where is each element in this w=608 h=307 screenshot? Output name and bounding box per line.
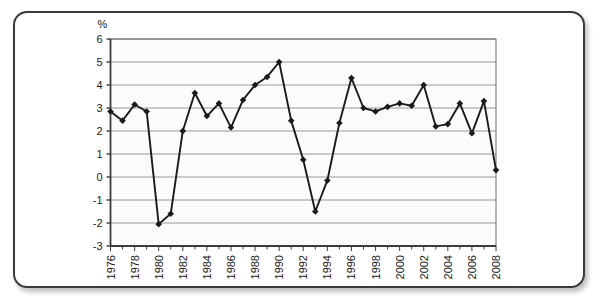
y-tick-label: 3 [96,102,102,114]
x-tick-label: 2006 [466,255,478,279]
x-tick-label: 2000 [394,255,406,279]
y-tick-label: 5 [96,56,102,68]
x-tick-label: 1978 [129,255,141,279]
x-tick-label: 1976 [105,255,117,279]
x-tick-label: 1988 [249,255,261,279]
x-tick-label: 1984 [201,255,213,279]
x-tick-label: 1982 [177,255,189,279]
x-tick-label: 1980 [153,255,165,279]
line-chart-svg: 6543210-1-2-3%19761978198019821984198619… [0,0,608,307]
y-tick-label: 2 [96,125,102,137]
x-tick-label: 2008 [490,255,502,279]
y-tick-label: 4 [96,79,102,91]
y-tick-label: 6 [96,33,102,45]
y-tick-label: 0 [96,171,102,183]
x-tick-label: 1996 [345,255,357,279]
x-tick-label: 1986 [225,255,237,279]
y-tick-label: -3 [93,240,103,252]
x-tick-label: 2004 [442,255,454,279]
x-tick-label: 2002 [418,255,430,279]
x-tick-label: 1998 [370,255,382,279]
x-tick-label: 1994 [321,255,333,279]
x-tick-label: 1990 [273,255,285,279]
y-tick-label: -2 [93,217,103,229]
y-axis-unit-label: % [98,18,108,30]
y-tick-label: 1 [96,148,102,160]
chart-figure: 6543210-1-2-3%19761978198019821984198619… [0,0,608,307]
x-tick-label: 1992 [297,255,309,279]
y-tick-label: -1 [93,194,103,206]
screenshot-frame: 6543210-1-2-3%19761978198019821984198619… [0,0,608,307]
